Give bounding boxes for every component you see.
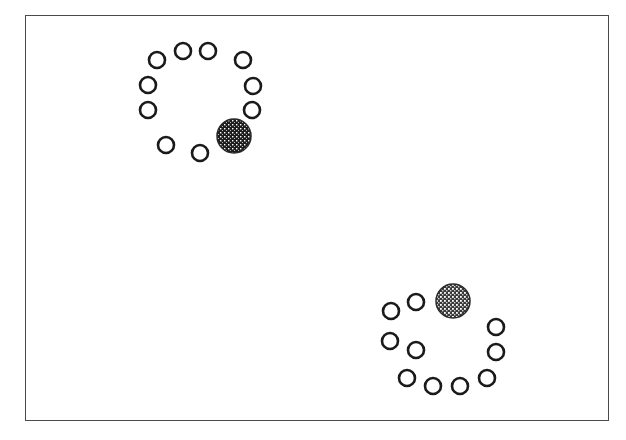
open-circle — [408, 342, 424, 358]
open-circle — [244, 102, 260, 118]
open-circle — [452, 378, 468, 394]
clusters-layer — [140, 43, 504, 394]
open-circle — [383, 303, 399, 319]
open-circle — [200, 43, 216, 59]
filled-circle — [436, 284, 470, 318]
open-circle — [192, 145, 208, 161]
circle-cluster-diagram — [0, 0, 626, 440]
open-circle — [245, 78, 261, 94]
open-circle — [382, 333, 398, 349]
open-circle — [158, 137, 174, 153]
open-circle — [425, 378, 441, 394]
bottom-right-cluster — [382, 284, 504, 394]
open-circle — [399, 370, 415, 386]
open-circle — [488, 319, 504, 335]
open-circle — [175, 43, 191, 59]
open-circle — [479, 370, 495, 386]
open-circle — [140, 77, 156, 93]
open-circle — [408, 294, 424, 310]
open-circle — [235, 52, 251, 68]
filled-circle — [217, 119, 251, 153]
top-left-cluster — [140, 43, 261, 161]
open-circle — [149, 52, 165, 68]
open-circle — [488, 344, 504, 360]
open-circle — [140, 102, 156, 118]
